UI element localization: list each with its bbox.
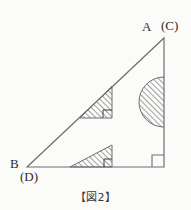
- figure-container: A (C) B (D) 【図2】: [0, 0, 191, 210]
- vertex-label-c: (C): [161, 19, 178, 32]
- vertex-label-a: A: [142, 20, 151, 33]
- vertex-label-b: B: [10, 157, 19, 170]
- right-angle-mark-main: [152, 155, 164, 167]
- figure-caption: 【図2】: [0, 188, 191, 204]
- vertex-label-d: (D): [20, 170, 38, 183]
- lower-hatched-triangle: [70, 145, 112, 167]
